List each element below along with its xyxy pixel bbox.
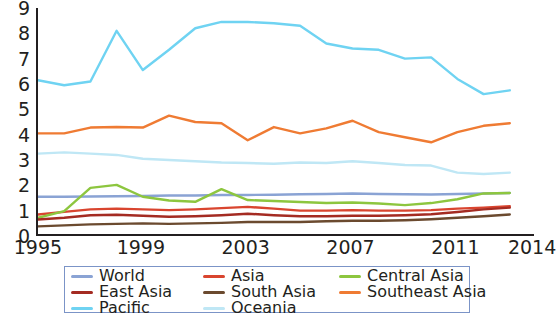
y-tick-label: 8 — [0, 24, 30, 43]
legend-color-swatch — [71, 291, 93, 294]
legend-label: Southeast Asia — [367, 284, 486, 300]
legend-label: Pacific — [99, 300, 150, 316]
legend-color-swatch — [203, 291, 225, 294]
x-axis-tick-labels: 199519992003200720112014 — [0, 238, 544, 264]
x-tick-label: 1999 — [117, 238, 165, 257]
legend-color-swatch — [339, 291, 361, 294]
legend-item[interactable]: Oceania — [203, 300, 339, 316]
y-tick-label: 2 — [0, 176, 30, 195]
y-axis-tick-labels: 0123456789 — [0, 0, 34, 244]
series-line — [38, 193, 510, 197]
x-tick-label: 2003 — [221, 238, 269, 257]
legend-color-swatch — [339, 275, 361, 278]
legend-color-swatch — [203, 307, 225, 310]
series-line — [38, 116, 510, 143]
y-tick-label: 4 — [0, 126, 30, 145]
y-tick-label: 6 — [0, 75, 30, 94]
y-tick-label: 9 — [0, 0, 30, 18]
legend-color-swatch — [71, 275, 93, 278]
series-lines — [38, 8, 536, 236]
plot-area — [36, 8, 534, 236]
series-line — [38, 22, 510, 94]
y-tick-label: 5 — [0, 100, 30, 119]
x-tick-label: 1995 — [14, 238, 62, 257]
x-tick-label: 2014 — [508, 238, 556, 257]
x-tick-label: 2007 — [326, 238, 374, 257]
legend-color-swatch — [203, 275, 225, 278]
x-tick-label: 2011 — [431, 238, 479, 257]
legend: WorldAsiaCentral AsiaEast AsiaSouth Asia… — [64, 266, 470, 313]
legend-item[interactable]: Pacific — [71, 300, 203, 316]
legend-item[interactable]: Southeast Asia — [339, 284, 477, 300]
y-tick-label: 3 — [0, 151, 30, 170]
y-tick-label: 7 — [0, 50, 30, 69]
y-tick-label: 1 — [0, 202, 30, 221]
legend-color-swatch — [71, 307, 93, 310]
legend-label: Oceania — [231, 300, 296, 316]
series-line — [38, 152, 510, 174]
